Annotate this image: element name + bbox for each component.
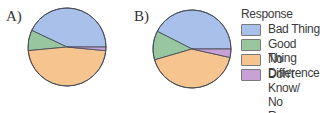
pie-chart-b [153, 10, 231, 88]
legend-title: Response [241, 7, 325, 21]
legend-label-line2: No Response [268, 95, 320, 113]
legend-label: Don't Know/ No Response [268, 67, 325, 113]
legend-swatch [241, 69, 261, 81]
legend-item-dont-know: Don't Know/ No Response [241, 67, 325, 97]
legend-swatch [241, 24, 261, 36]
legend-label-line1: Don't Know/ [268, 67, 300, 95]
legend-swatch [241, 54, 261, 66]
legend-swatch [241, 39, 261, 51]
legend-item-good-thing: Good Thing [241, 37, 325, 52]
legend: Response Bad Thing Good Thing No Differe… [241, 7, 325, 97]
legend-item-bad-thing: Bad Thing [241, 22, 325, 37]
legend-label: Bad Thing [268, 22, 320, 36]
legend-item-no-difference: No Difference [241, 52, 325, 67]
pie-slice [28, 47, 106, 86]
pie-chart-a [28, 8, 106, 86]
